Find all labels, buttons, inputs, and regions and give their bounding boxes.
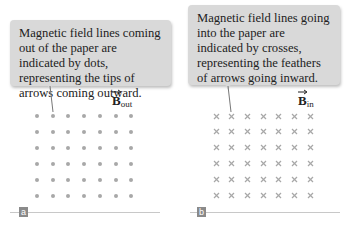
cross-marker-icon <box>260 113 267 120</box>
cross-marker-icon <box>260 160 267 167</box>
dot-marker-icon <box>35 146 39 150</box>
dot-marker-icon <box>82 178 86 182</box>
dot-marker-icon <box>129 114 133 118</box>
dot-marker-icon <box>51 114 55 118</box>
dot-marker-icon <box>51 162 55 166</box>
cross-marker-icon <box>275 128 282 135</box>
dot-marker-icon <box>82 114 86 118</box>
cross-marker-icon <box>260 192 267 199</box>
dot-marker-icon <box>129 194 133 198</box>
dot-marker-icon <box>66 178 70 182</box>
cross-marker-icon <box>244 192 251 199</box>
callout-into-paper: Magnetic field lines going into the pape… <box>188 5 340 85</box>
cross-marker-icon <box>275 144 282 151</box>
dot-marker-icon <box>66 194 70 198</box>
panel-label-a: a <box>19 207 28 217</box>
dot-marker-icon <box>51 146 55 150</box>
cross-marker-icon <box>213 113 220 120</box>
cross-marker-icon <box>291 192 298 199</box>
cross-marker-icon <box>291 144 298 151</box>
dot-marker-icon <box>114 178 118 182</box>
dot-marker-icon <box>114 162 118 166</box>
cross-marker-icon <box>213 176 220 183</box>
dot-marker-icon <box>114 146 118 150</box>
cross-marker-icon <box>244 160 251 167</box>
dot-marker-icon <box>35 194 39 198</box>
dot-marker-icon <box>114 194 118 198</box>
cross-marker-icon <box>244 176 251 183</box>
dot-marker-icon <box>114 130 118 134</box>
field-label-b-in: Bin <box>298 93 314 109</box>
field-subscript: in <box>307 99 314 109</box>
dot-marker-icon <box>98 146 102 150</box>
cross-marker-icon <box>307 192 314 199</box>
cross-marker-icon <box>213 192 220 199</box>
dot-marker-icon <box>35 178 39 182</box>
callout-pointer-icon <box>222 84 238 114</box>
cross-marker-icon <box>244 128 251 135</box>
cross-marker-icon <box>244 144 251 151</box>
dot-marker-icon <box>82 146 86 150</box>
dot-marker-icon <box>51 178 55 182</box>
field-symbol: B <box>112 93 121 108</box>
dot-marker-icon <box>35 162 39 166</box>
cross-marker-icon <box>291 160 298 167</box>
cross-marker-icon <box>275 192 282 199</box>
field-symbol: B <box>298 93 307 108</box>
dot-marker-icon <box>51 130 55 134</box>
dot-marker-icon <box>35 114 39 118</box>
field-subscript: out <box>121 99 133 109</box>
cross-marker-icon <box>307 176 314 183</box>
dot-marker-icon <box>98 130 102 134</box>
cross-marker-icon <box>213 128 220 135</box>
cross-marker-icon <box>275 160 282 167</box>
cross-marker-icon <box>260 176 267 183</box>
vector-arrow-icon <box>112 89 122 95</box>
cross-marker-icon <box>275 113 282 120</box>
cross-marker-icon <box>307 144 314 151</box>
cross-marker-icon <box>260 128 267 135</box>
baseline-b <box>190 212 340 213</box>
dot-marker-icon <box>129 146 133 150</box>
dot-marker-icon <box>51 194 55 198</box>
dot-marker-icon <box>98 162 102 166</box>
cross-marker-icon <box>228 144 235 151</box>
dot-marker-icon <box>35 130 39 134</box>
vector-arrow-icon <box>298 89 308 95</box>
cross-marker-icon <box>228 113 235 120</box>
dot-marker-icon <box>66 130 70 134</box>
panel-label-b: b <box>197 207 206 217</box>
dot-marker-icon <box>129 130 133 134</box>
cross-marker-icon <box>307 113 314 120</box>
cross-marker-icon <box>228 160 235 167</box>
cross-marker-icon <box>291 128 298 135</box>
cross-marker-icon <box>307 128 314 135</box>
dot-marker-icon <box>66 162 70 166</box>
cross-marker-icon <box>228 192 235 199</box>
dot-marker-icon <box>82 130 86 134</box>
dot-marker-icon <box>98 178 102 182</box>
dot-marker-icon <box>129 178 133 182</box>
dot-marker-icon <box>129 162 133 166</box>
baseline-a <box>10 212 160 213</box>
dot-marker-icon <box>114 114 118 118</box>
callout-pointer-icon <box>44 84 60 114</box>
cross-marker-icon <box>213 160 220 167</box>
callout-out-of-paper: Magnetic field lines coming out of the p… <box>10 20 171 86</box>
cross-marker-icon <box>307 160 314 167</box>
dot-marker-icon <box>82 162 86 166</box>
cross-marker-icon <box>228 128 235 135</box>
dot-marker-icon <box>66 146 70 150</box>
cross-marker-icon <box>213 144 220 151</box>
cross-marker-icon <box>291 113 298 120</box>
cross-marker-icon <box>244 113 251 120</box>
dot-marker-icon <box>82 194 86 198</box>
cross-marker-icon <box>275 176 282 183</box>
field-label-b-out: Bout <box>112 93 132 109</box>
cross-marker-icon <box>291 176 298 183</box>
cross-marker-icon <box>228 176 235 183</box>
dot-marker-icon <box>98 194 102 198</box>
dot-marker-icon <box>66 114 70 118</box>
cross-marker-icon <box>260 144 267 151</box>
dot-marker-icon <box>98 114 102 118</box>
